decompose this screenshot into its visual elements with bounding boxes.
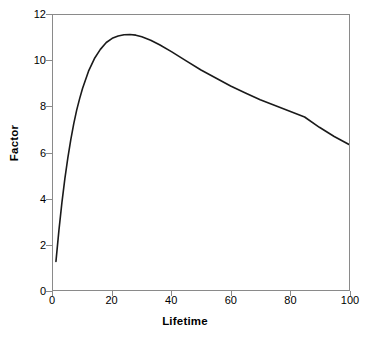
y-tick-label: 0	[0, 286, 46, 297]
x-axis-title: Lifetime	[0, 315, 370, 327]
x-tick-mark	[231, 291, 232, 296]
x-tick-mark	[171, 291, 172, 296]
y-axis-title: Factor	[8, 108, 20, 178]
y-tick-label: 8	[0, 101, 46, 112]
x-tick-mark	[350, 291, 351, 296]
x-tick-label: 0	[49, 295, 55, 306]
x-tick-label: 40	[165, 295, 177, 306]
x-tick-mark	[290, 291, 291, 296]
y-tick-label: 2	[0, 239, 46, 250]
x-tick-mark	[52, 291, 53, 296]
x-tick-label: 60	[225, 295, 237, 306]
y-tick-label: 6	[0, 147, 46, 158]
data-series-line	[53, 15, 349, 290]
x-tick-label: 20	[105, 295, 117, 306]
plot-area	[52, 14, 350, 291]
x-tick-label: 80	[284, 295, 296, 306]
y-tick-label: 4	[0, 193, 46, 204]
x-tick-label: 100	[341, 295, 359, 306]
x-tick-mark	[112, 291, 113, 296]
y-tick-label: 10	[0, 55, 46, 66]
y-tick-label: 12	[0, 9, 46, 20]
chart-figure: 024681012 020406080100 Lifetime Factor	[0, 0, 370, 341]
